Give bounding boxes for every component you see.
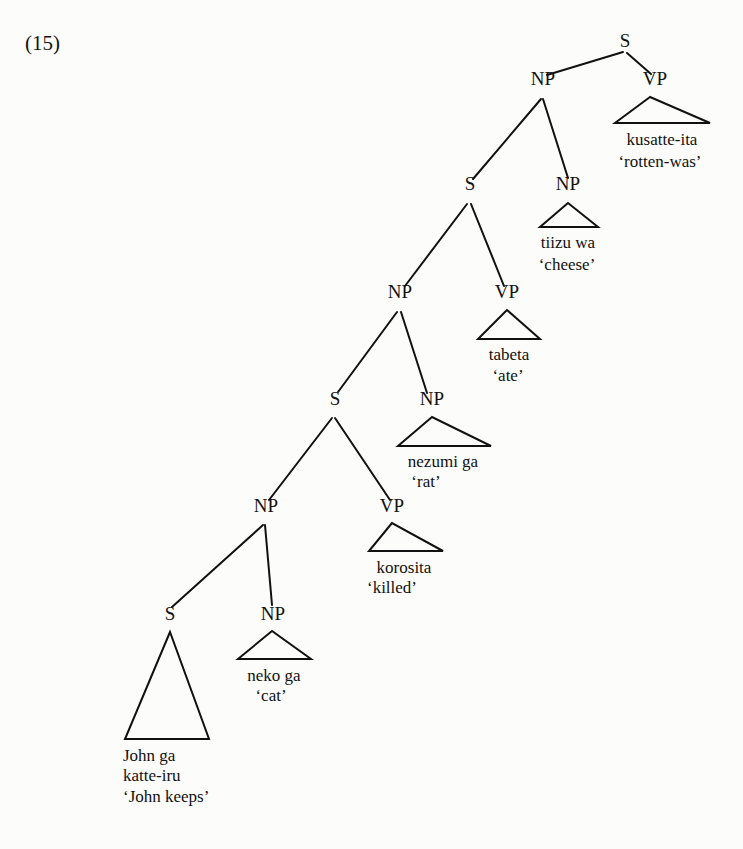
- terminal-gloss: ‘killed’: [367, 578, 417, 597]
- tree-edge-s1-vp1: [471, 204, 504, 286]
- terminal-np5: neko ga‘cat’: [238, 631, 311, 705]
- tree-nodes: SNPVPSNPNPVPSNPNPVPSNP: [165, 30, 667, 624]
- example-number: (15): [25, 31, 60, 55]
- terminal-text: tiizu wa: [541, 233, 596, 252]
- triangle-icon: [478, 310, 540, 339]
- triangle-icon: [540, 203, 598, 227]
- node-np-np1: NP: [556, 173, 580, 194]
- node-np-np0: NP: [531, 68, 555, 89]
- terminal-text: tabeta: [489, 345, 530, 364]
- node-np-np2: NP: [388, 281, 412, 302]
- terminal-gloss: ‘rotten-was’: [618, 152, 701, 171]
- terminal-text: John ga: [123, 746, 176, 765]
- node-np-np3: NP: [420, 388, 444, 409]
- tree-edge-np4-s3: [172, 525, 263, 607]
- tree-edge-s2-vp2: [335, 418, 390, 500]
- node-s-s0: S: [620, 30, 631, 51]
- terminal-text: kusatte-ita: [627, 130, 698, 149]
- terminal-vp1: tabeta‘ate’: [478, 310, 540, 385]
- tree-edge-np2-np3: [401, 312, 427, 393]
- tree-edges: [172, 52, 651, 607]
- terminal-text: nezumi ga: [408, 452, 479, 471]
- terminal-np1: tiizu wa‘cheese’: [539, 203, 598, 274]
- node-np-np4: NP: [254, 495, 278, 516]
- triangle-icon: [125, 632, 209, 739]
- node-vp-vp0: VP: [643, 68, 667, 89]
- node-vp-vp2: VP: [380, 495, 404, 516]
- terminal-gloss: ‘rat’: [411, 472, 440, 491]
- terminal-text: korosita: [377, 558, 432, 577]
- terminal-text: neko ga: [247, 666, 301, 685]
- tree-edge-np4-np5: [265, 525, 272, 605]
- tree-edge-s0-np0: [547, 52, 623, 75]
- terminal-vp2: korosita‘killed’: [367, 523, 443, 597]
- terminal-triangles: kusatte-ita‘rotten-was’tiizu wa‘cheese’t…: [123, 97, 710, 806]
- terminal-gloss: ‘cheese’: [539, 255, 596, 274]
- terminal-s3: John gakatte-iru‘John keeps’: [123, 632, 209, 806]
- tree-edge-np0-s1: [473, 99, 541, 179]
- tree-edge-s1-np2: [405, 204, 467, 286]
- node-s-s1: S: [465, 173, 476, 194]
- syntax-tree-diagram: (15) kusatte-ita‘rotten-was’tiizu wa‘che…: [0, 0, 743, 849]
- tree-edge-np2-s2: [338, 312, 397, 392]
- triangle-icon: [369, 523, 443, 551]
- node-vp-vp1: VP: [495, 281, 519, 302]
- triangle-icon: [615, 97, 710, 123]
- node-s-s3: S: [165, 603, 176, 624]
- node-np-np5: NP: [261, 603, 285, 624]
- terminal-gloss: ‘ate’: [492, 366, 523, 385]
- triangle-icon: [398, 417, 491, 446]
- tree-edge-np0-np1: [543, 99, 568, 178]
- tree-edge-s2-np4: [269, 418, 332, 500]
- node-s-s2: S: [330, 388, 341, 409]
- terminal-gloss: ‘cat’: [255, 686, 286, 705]
- triangle-icon: [238, 631, 311, 659]
- terminal-np3: nezumi ga‘rat’: [398, 417, 491, 491]
- terminal-gloss: katte-iru: [123, 766, 181, 785]
- terminal-gloss: ‘John keeps’: [123, 787, 209, 806]
- terminal-vp0: kusatte-ita‘rotten-was’: [615, 97, 710, 171]
